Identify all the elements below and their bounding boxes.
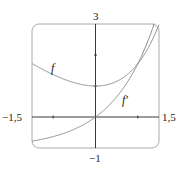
f-label: f bbox=[51, 61, 56, 75]
y-max-label: 3 bbox=[93, 10, 99, 22]
y-min-label: −1 bbox=[89, 152, 101, 164]
x-min-label: −1,5 bbox=[2, 111, 22, 123]
chart: −1,5 1,5 3 −1 f f′ bbox=[0, 0, 186, 174]
f-prime-label: f′ bbox=[122, 93, 128, 107]
curve-f-prime bbox=[32, 24, 154, 142]
x-max-label: 1,5 bbox=[162, 111, 176, 123]
